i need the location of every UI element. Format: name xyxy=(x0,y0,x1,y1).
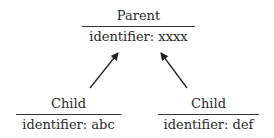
arrow-icon xyxy=(90,53,118,88)
arrow-icon xyxy=(161,53,187,88)
edges xyxy=(0,0,274,138)
